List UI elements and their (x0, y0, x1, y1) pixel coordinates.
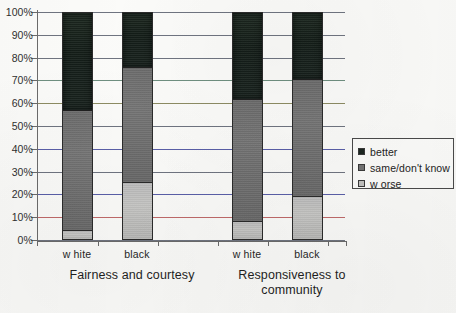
y-axis-label: 100% (0, 6, 33, 18)
y-axis-label: 80% (0, 52, 33, 64)
y-axis-label: 40% (0, 143, 33, 155)
segment-same (233, 99, 262, 221)
segment-better (63, 13, 92, 110)
x-tick (268, 241, 269, 246)
x-axis-category-label: black (277, 248, 337, 260)
y-axis-label: 30% (0, 166, 33, 178)
segment-better (123, 13, 152, 67)
x-axis-group-label: Responsiveness to community (222, 268, 362, 298)
x-tick (98, 241, 99, 246)
legend-item-worse[interactable]: w orse (358, 176, 453, 191)
legend-swatch-icon (358, 180, 365, 187)
y-axis-labels: 100% 90% 80% 70% 60% 50% 40% 30% 20% 10%… (0, 0, 33, 253)
legend-label: better (370, 146, 397, 158)
x-axis-category-label: w hite (217, 248, 277, 260)
legend-item-better[interactable]: better (358, 144, 453, 159)
segment-worse (293, 196, 322, 239)
y-axis-label: 50% (0, 120, 33, 132)
segment-worse (63, 230, 92, 239)
x-tick (37, 241, 38, 246)
legend-label: w orse (370, 178, 402, 190)
segment-better (233, 13, 262, 99)
segment-same (293, 79, 322, 197)
segment-same (63, 110, 92, 230)
plot-area (37, 12, 345, 240)
bar-responsiveness-white[interactable] (232, 12, 263, 240)
stacked-bar-chart: 100% 90% 80% 70% 60% 50% 40% 30% 20% 10%… (0, 0, 456, 313)
x-tick (346, 241, 347, 246)
legend-swatch-icon (358, 164, 365, 171)
legend-swatch-icon (358, 148, 365, 155)
x-tick (218, 241, 219, 246)
segment-same (123, 67, 152, 182)
bar-responsiveness-black[interactable] (292, 12, 323, 240)
x-tick (328, 241, 329, 246)
x-axis-category-label: w hite (47, 248, 107, 260)
y-axis-label: 0% (0, 234, 33, 246)
bar-fairness-white[interactable] (62, 12, 93, 240)
y-axis-label: 10% (0, 211, 33, 223)
legend-item-same[interactable]: same/don't know (358, 160, 453, 175)
segment-worse (233, 221, 262, 239)
legend-label: same/don't know (370, 162, 450, 174)
chart-legend: better same/don't know w orse (352, 138, 454, 189)
y-axis-label: 70% (0, 74, 33, 86)
x-axis-category-label: black (107, 248, 167, 260)
x-axis-group-label: Fairness and courtesy (32, 268, 232, 283)
y-axis-label: 60% (0, 97, 33, 109)
segment-better (293, 13, 322, 79)
y-axis-label: 90% (0, 29, 33, 41)
y-axis-label: 20% (0, 188, 33, 200)
x-tick (158, 241, 159, 246)
x-axis-line (37, 241, 347, 242)
bar-fairness-black[interactable] (122, 12, 153, 240)
segment-worse (123, 182, 152, 239)
